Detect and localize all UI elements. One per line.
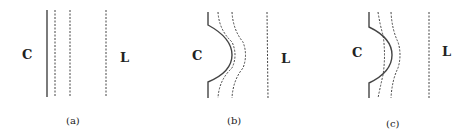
dashed-line [267, 12, 268, 98]
right-label: L [442, 44, 451, 59]
caption: (a) [66, 115, 80, 126]
left-label: C [22, 47, 32, 62]
dashed-curve-inner [378, 12, 385, 98]
right-label: L [281, 51, 290, 66]
diagram-figure: C L (a) C L (b) C L (c) [0, 0, 475, 134]
right-label: L [120, 50, 129, 65]
panel-c: C L (c) [352, 12, 451, 129]
left-label: C [352, 45, 362, 60]
dashed-curve-outer [232, 12, 246, 98]
left-label: C [192, 48, 202, 63]
panel-b: C L (b) [192, 12, 290, 126]
caption: (c) [386, 118, 400, 129]
caption: (b) [227, 115, 241, 126]
panel-a: C L (a) [22, 10, 129, 126]
